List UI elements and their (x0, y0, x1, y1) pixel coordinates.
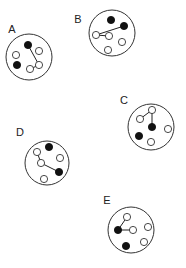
panel-label: C (120, 94, 128, 106)
filled-particle (24, 41, 31, 48)
panel-label: E (103, 194, 110, 206)
open-particle (33, 148, 40, 155)
open-particle (118, 38, 125, 45)
open-particle (35, 47, 42, 54)
panel-b: B (74, 10, 135, 56)
filled-particle (13, 61, 20, 68)
open-particle (92, 31, 99, 38)
panel-c: C (120, 94, 174, 150)
filled-particle (135, 132, 142, 139)
particle-diagram: ABCDE (0, 0, 186, 268)
open-particle (35, 61, 42, 68)
open-particle (164, 125, 171, 132)
open-particle (12, 51, 19, 58)
open-particle (144, 223, 151, 230)
filled-particle (107, 16, 114, 23)
filled-particle (45, 143, 52, 150)
open-particle (123, 213, 130, 220)
open-particle (148, 106, 155, 113)
open-particle (129, 226, 136, 233)
panel-a: A (6, 23, 52, 80)
filled-particle (120, 22, 127, 29)
panel-e: E (103, 194, 154, 253)
panel-label: D (16, 126, 24, 138)
panel-label: B (74, 13, 81, 25)
filled-particle (55, 168, 62, 175)
open-particle (37, 159, 44, 166)
panel-d: D (16, 126, 69, 185)
open-particle (104, 46, 111, 53)
open-particle (56, 154, 63, 161)
filled-particle (122, 242, 129, 249)
open-particle (136, 115, 143, 122)
open-particle (105, 32, 112, 39)
open-particle (40, 175, 47, 182)
panel-label: A (8, 23, 16, 35)
open-particle (26, 65, 33, 72)
filled-particle (148, 123, 155, 130)
panels: ABCDE (6, 10, 174, 253)
filled-particle (114, 226, 121, 233)
open-particle (140, 238, 147, 245)
open-particle (147, 138, 154, 145)
